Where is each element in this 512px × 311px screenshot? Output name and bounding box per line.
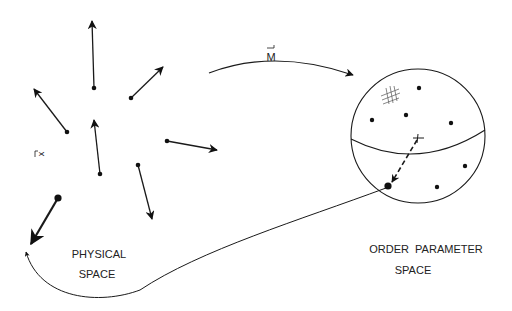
physical-space-spins (31, 21, 217, 244)
position-symbol: x (36, 151, 46, 156)
spin-arrow (129, 67, 163, 100)
position-vector-label: x (35, 151, 46, 157)
spin-arrow (165, 139, 217, 150)
svg-text:SPACE: SPACE (395, 264, 431, 276)
center-mark-icon (413, 134, 424, 143)
return-loop-arrow (26, 188, 386, 298)
hatch-mark-icon (381, 86, 400, 104)
order-parameter-diagram: x M (0, 0, 512, 311)
spin-arrow (92, 21, 97, 90)
map-symbol: M (266, 51, 275, 63)
spin-arrow (94, 120, 102, 176)
svg-text:PHYSICAL: PHYSICAL (72, 248, 126, 260)
spin-arrow (34, 89, 69, 134)
sphere-equator (351, 130, 485, 154)
mapping-arrow-m: M (209, 45, 353, 75)
svg-text:ORDER PARAMETER: ORDER PARAMETER (369, 243, 483, 255)
physical-space-label: PHYSICAL SPACE (72, 248, 126, 280)
order-parameter-space-label: ORDER PARAMETER SPACE (369, 243, 483, 276)
svg-text:SPACE: SPACE (79, 268, 115, 280)
highlighted-spin-arrow (31, 194, 62, 244)
spin-arrow (136, 163, 152, 219)
order-parameter-sphere (351, 69, 485, 203)
